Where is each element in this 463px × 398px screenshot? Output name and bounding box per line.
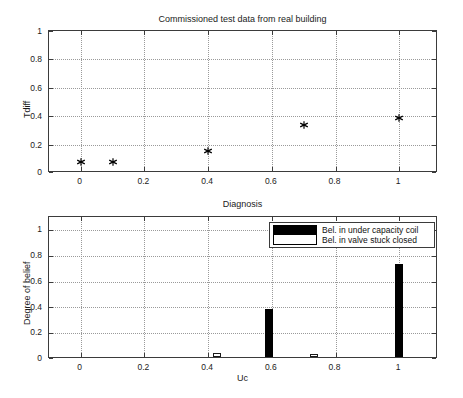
x-tick-label-top-1: 0.2 bbox=[137, 176, 149, 186]
panel-commissioned-test-data: Commissioned test data from real buildin… bbox=[0, 0, 463, 192]
y-tick-right-top-panel-2 bbox=[432, 88, 436, 89]
x-tick-upper-top-panel-2 bbox=[208, 31, 209, 35]
y-tick-label-bottom-1: 0.2 bbox=[22, 327, 42, 337]
gridline-h-0.2 bbox=[49, 333, 436, 334]
data-point-marker bbox=[76, 157, 85, 166]
x-axis-label-bottom: Uc bbox=[48, 373, 437, 383]
y-tick-top-panel-5 bbox=[49, 172, 53, 173]
gridline-v-0 bbox=[81, 217, 82, 357]
legend-labels: Bel. in under capacity coil Bel. in valv… bbox=[322, 225, 418, 245]
gridline-v-0.2 bbox=[144, 31, 145, 171]
plot-area-bottom: Bel. in under capacity coil Bel. in valv… bbox=[48, 216, 437, 358]
x-tick-top-panel-1 bbox=[144, 167, 145, 171]
y-tick-right-bottom-panel-0 bbox=[432, 358, 436, 359]
x-tick-upper-bottom-panel-1 bbox=[144, 217, 145, 221]
x-tick-upper-top-panel-1 bbox=[144, 31, 145, 35]
data-point-marker bbox=[395, 114, 404, 123]
y-tick-right-top-panel-3 bbox=[432, 116, 436, 117]
x-tick-label-top-4: 0.8 bbox=[329, 176, 341, 186]
legend-item-under-capacity-coil: Bel. in under capacity coil bbox=[322, 225, 418, 235]
gridline-h-0.4 bbox=[49, 307, 436, 308]
plot-area-top bbox=[48, 30, 437, 172]
gridline-h-0.8 bbox=[49, 59, 436, 60]
gridline-h-0.2 bbox=[49, 145, 436, 146]
y-tick-label-bottom-5: 1 bbox=[22, 224, 42, 234]
x-tick-upper-bottom-panel-3 bbox=[272, 217, 273, 221]
x-tick-upper-top-panel-5 bbox=[399, 31, 400, 35]
x-tick-label-top-0: 0 bbox=[77, 176, 82, 186]
y-tick-top-panel-2 bbox=[49, 88, 53, 89]
x-tick-upper-bottom-panel-0 bbox=[81, 217, 82, 221]
x-tick-upper-top-panel-0 bbox=[81, 31, 82, 35]
x-tick-top-panel-4 bbox=[336, 167, 337, 171]
y-tick-bottom-panel-0 bbox=[49, 358, 53, 359]
y-axis-label-bottom: Degree of belief bbox=[22, 261, 32, 325]
y-tick-label-bottom-3: 0.6 bbox=[22, 276, 42, 286]
x-tick-label-bottom-5: 1 bbox=[396, 362, 401, 372]
legend-swatches bbox=[273, 225, 317, 245]
y-tick-label-bottom-0: 0 bbox=[22, 353, 42, 363]
y-tick-label-top-5: 0 bbox=[22, 167, 42, 177]
y-tick-top-panel-4 bbox=[49, 145, 53, 146]
y-tick-right-bottom-panel-4 bbox=[432, 256, 436, 257]
x-tick-label-bottom-4: 0.8 bbox=[329, 362, 341, 372]
y-tick-label-top-2: 0.6 bbox=[22, 83, 42, 93]
gridline-h-0.6 bbox=[49, 282, 436, 283]
y-tick-bottom-panel-4 bbox=[49, 256, 53, 257]
gridline-v-1 bbox=[399, 31, 400, 171]
x-tick-top-panel-3 bbox=[272, 167, 273, 171]
gridline-v-0.2 bbox=[144, 217, 145, 357]
y-tick-label-bottom-2: 0.4 bbox=[22, 302, 42, 312]
x-tick-label-top-3: 0.6 bbox=[265, 176, 277, 186]
y-tick-bottom-panel-3 bbox=[49, 282, 53, 283]
x-tick-label-bottom-0: 0 bbox=[77, 362, 82, 372]
y-tick-right-top-panel-1 bbox=[432, 59, 436, 60]
bar-under-capacity-coil bbox=[395, 264, 403, 357]
gridline-h-0.8 bbox=[49, 256, 436, 257]
gridline-v-0 bbox=[81, 31, 82, 171]
chart-title-bottom: Diagnosis bbox=[48, 199, 437, 209]
x-tick-top-panel-0 bbox=[81, 167, 82, 171]
x-tick-label-bottom-1: 0.2 bbox=[137, 362, 149, 372]
y-tick-label-top-1: 0.8 bbox=[22, 54, 42, 64]
x-tick-upper-top-panel-3 bbox=[272, 31, 273, 35]
x-tick-upper-bottom-panel-2 bbox=[208, 217, 209, 221]
legend[interactable]: Bel. in under capacity coil Bel. in valv… bbox=[269, 222, 435, 248]
y-tick-bottom-panel-1 bbox=[49, 333, 53, 334]
y-tick-bottom-panel-2 bbox=[49, 307, 53, 308]
x-tick-label-top-5: 1 bbox=[396, 176, 401, 186]
x-tick-top-panel-2 bbox=[208, 167, 209, 171]
y-tick-label-top-4: 0.2 bbox=[22, 140, 42, 150]
bar-valve-stuck-closed bbox=[213, 353, 221, 357]
y-tick-right-top-panel-0 bbox=[432, 31, 436, 32]
bar-valve-stuck-closed bbox=[310, 354, 318, 357]
y-tick-top-panel-3 bbox=[49, 116, 53, 117]
gridline-v-0.4 bbox=[208, 31, 209, 171]
x-tick-bottom-panel-1 bbox=[144, 353, 145, 357]
legend-swatch-under-capacity-coil bbox=[273, 225, 317, 235]
gridline-v-0.8 bbox=[336, 31, 337, 171]
x-tick-upper-bottom-panel-4 bbox=[336, 217, 337, 221]
y-tick-right-bottom-panel-3 bbox=[432, 282, 436, 283]
panel-diagnosis: Diagnosis Degree of belief Uc 1 0.8 0.6 … bbox=[0, 192, 463, 398]
x-tick-bottom-panel-4 bbox=[336, 353, 337, 357]
legend-item-valve-stuck-closed: Bel. in valve stuck closed bbox=[322, 235, 418, 245]
gridline-v-0.6 bbox=[272, 31, 273, 171]
gridline-v-0.4 bbox=[208, 217, 209, 357]
x-tick-bottom-panel-0 bbox=[81, 353, 82, 357]
y-tick-right-bottom-panel-2 bbox=[432, 307, 436, 308]
y-tick-top-panel-1 bbox=[49, 59, 53, 60]
x-tick-label-bottom-3: 0.6 bbox=[265, 362, 277, 372]
figure-canvas: Commissioned test data from real buildin… bbox=[0, 0, 463, 398]
y-tick-label-top-3: 0.4 bbox=[22, 111, 42, 121]
bar-under-capacity-coil bbox=[265, 309, 273, 357]
x-tick-bottom-panel-2 bbox=[208, 353, 209, 357]
gridline-h-0.4 bbox=[49, 116, 436, 117]
x-tick-upper-bottom-panel-5 bbox=[399, 217, 400, 221]
data-point-marker bbox=[108, 157, 117, 166]
y-tick-right-top-panel-5 bbox=[432, 172, 436, 173]
chart-title-top: Commissioned test data from real buildin… bbox=[48, 14, 437, 24]
y-tick-label-bottom-4: 0.8 bbox=[22, 250, 42, 260]
legend-swatch-valve-stuck-closed bbox=[273, 235, 317, 245]
gridline-h-0.6 bbox=[49, 88, 436, 89]
